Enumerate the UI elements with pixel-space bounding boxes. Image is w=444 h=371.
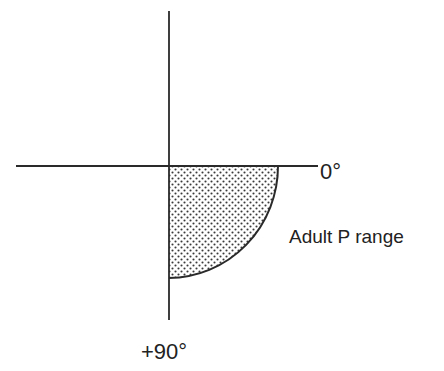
angle-diagram: [0, 0, 444, 371]
adult-p-range-label: Adult P range: [289, 227, 404, 246]
ninety-degree-label: +90°: [141, 341, 187, 363]
zero-degree-label: 0°: [320, 161, 341, 183]
adult-p-range-region: [169, 166, 278, 278]
